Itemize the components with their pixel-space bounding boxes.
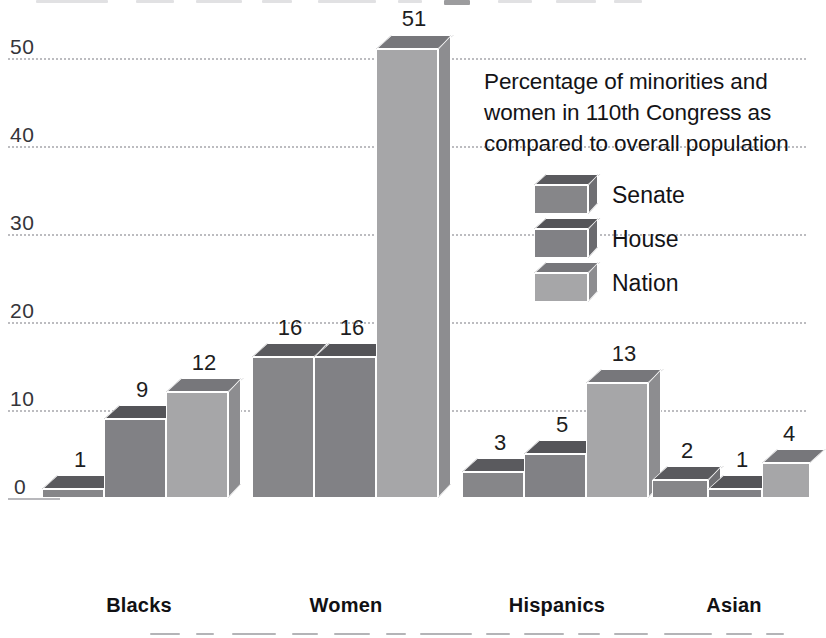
bar-side-face	[438, 35, 451, 498]
bar-value-label: 4	[754, 423, 824, 445]
swatch-front-face	[534, 229, 588, 258]
bar-blacks-nation: 12	[166, 392, 228, 498]
bar-hispanics-senate: 3	[462, 472, 524, 498]
senate-swatch-icon	[534, 185, 588, 214]
bar-hispanics-nation: 13	[586, 383, 648, 498]
bar-blacks-house: 9	[104, 419, 166, 498]
swatch-front-face	[534, 185, 588, 214]
bar-front-face	[524, 454, 586, 498]
bar-value-label: 12	[169, 352, 239, 374]
bar-front-face	[462, 472, 524, 498]
bar-front-face	[314, 357, 376, 498]
bar-front-face	[166, 392, 228, 498]
legend-item-senate[interactable]: Senate	[534, 173, 806, 217]
bar-side-face	[228, 378, 241, 498]
x-axis-label-women: Women	[281, 594, 411, 617]
bar-value-label: 3	[465, 432, 535, 454]
x-axis-label-asian: Asian	[674, 594, 794, 617]
bar-front-face	[586, 383, 648, 498]
bar-value-label: 13	[589, 343, 659, 365]
bar-women-nation: 51	[376, 49, 438, 498]
legend-item-nation[interactable]: Nation	[534, 261, 806, 305]
bar-front-face	[252, 357, 314, 498]
bar-front-face	[376, 49, 438, 498]
legend-label-nation: Nation	[602, 270, 678, 297]
legend-label-house: House	[602, 226, 678, 253]
bar-women-house: 16	[314, 357, 376, 498]
legend-items: Senate House Nation	[534, 173, 806, 305]
legend-caption: Percentage of minorities and women in 11…	[484, 66, 806, 159]
bar-asian-senate: 2	[652, 480, 708, 498]
bar-value-label: 51	[379, 8, 449, 30]
cropped-source-caption-remnant	[0, 629, 812, 638]
house-swatch-icon	[534, 229, 588, 258]
bar-front-face	[652, 480, 708, 498]
x-axis-label-blacks: Blacks	[74, 594, 204, 617]
bar-asian-nation: 4	[762, 463, 810, 498]
legend-label-senate: Senate	[602, 182, 685, 209]
chart-legend: Percentage of minorities and women in 11…	[484, 66, 806, 305]
bar-front-face	[708, 489, 762, 498]
bar-hispanics-house: 5	[524, 454, 586, 498]
bar-value-label: 16	[255, 317, 325, 339]
bar-front-face	[104, 419, 166, 498]
bar-blacks-senate: 1	[42, 489, 104, 498]
bar-women-senate: 16	[252, 357, 314, 498]
bar-front-face	[42, 489, 104, 498]
bar-front-face	[762, 463, 810, 498]
nation-swatch-icon	[534, 273, 588, 302]
legend-item-house[interactable]: House	[534, 217, 806, 261]
x-axis-label-hispanics: Hispanics	[487, 594, 627, 617]
swatch-front-face	[534, 273, 588, 302]
bar-asian-house: 1	[708, 489, 762, 498]
